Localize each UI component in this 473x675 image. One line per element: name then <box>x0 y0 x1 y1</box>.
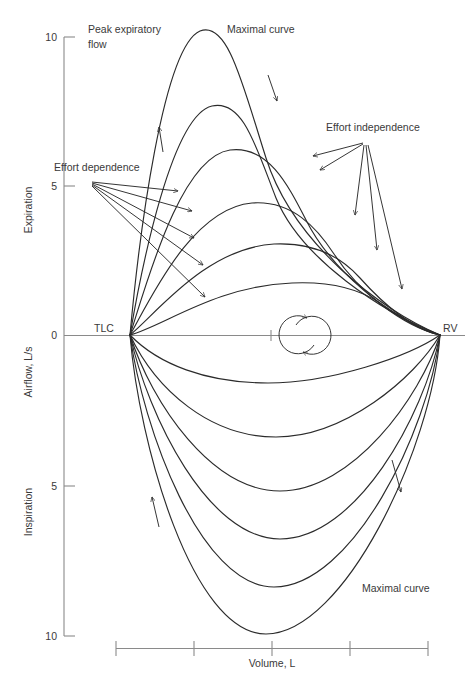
inspiratory-direction-arrows <box>152 460 401 527</box>
annotation-labels: Peak expiratory flow Maximal curve Maxim… <box>54 23 457 594</box>
effort-dependence-pointers <box>92 182 205 297</box>
y-tick-label-10-insp: 10 <box>45 630 57 642</box>
y-tick-label-0: 0 <box>51 329 57 341</box>
effort-dependence-arrow-3 <box>92 184 194 238</box>
expiratory-curve-6-submaximal <box>130 283 440 335</box>
zero-flow-axis <box>64 330 465 341</box>
expiratory-curves <box>130 30 440 335</box>
effort-independence-arrow-3 <box>355 145 364 215</box>
label-effort-independence: Effort independence <box>326 121 420 133</box>
axis-label-airflow: Airflow, L/s <box>22 347 34 398</box>
axis-label-expiration: Expiration <box>22 187 34 234</box>
y-tick-label-5-insp: 5 <box>51 480 57 492</box>
maximal-curve-arrow-icon <box>268 75 277 101</box>
expiratory-curve-3 <box>130 150 440 335</box>
label-tlc: TLC <box>94 322 114 334</box>
label-peak-expiratory-flow-line1: Peak expiratory <box>88 23 162 35</box>
y-tick-label-5-exp: 5 <box>51 180 57 192</box>
inspiratory-up-arrow-icon <box>152 497 159 527</box>
effort-independence-arrow-1 <box>313 143 363 156</box>
inspiratory-curve-1 <box>130 335 440 383</box>
y-axis: 10 5 0 5 10 Expiration Inspiration Airfl… <box>22 31 75 642</box>
effort-dependence-arrow-5 <box>92 186 205 297</box>
axis-label-inspiration: Inspiration <box>22 488 34 537</box>
label-rv: RV <box>443 322 457 334</box>
expiratory-flow-arrow-icon <box>159 127 163 152</box>
expiratory-direction-arrow <box>159 127 163 152</box>
label-peak-expiratory-flow-line2: flow <box>88 38 107 50</box>
inspiratory-curve-2 <box>130 335 440 437</box>
effort-independence-arrow-2 <box>320 144 363 170</box>
effort-independence-pointers <box>313 143 402 289</box>
flow-volume-loop-figure: 10 5 0 5 10 Expiration Inspiration Airfl… <box>0 0 473 675</box>
effort-dependence-arrow-4 <box>92 185 203 265</box>
label-maximal-curve-bottom: Maximal curve <box>362 582 430 594</box>
clockwise-loop-icon <box>279 316 314 354</box>
inspiratory-curve-5 <box>130 335 440 587</box>
axis-label-volume: Volume, L <box>249 657 296 669</box>
y-tick-label-10-exp: 10 <box>45 31 57 43</box>
label-effort-dependence: Effort dependence <box>54 161 140 173</box>
expiratory-curve-2 <box>130 105 440 335</box>
label-maximal-curve-top: Maximal curve <box>227 23 295 35</box>
x-axis: Volume, L <box>116 641 428 669</box>
expiratory-descend-arrow <box>268 75 277 101</box>
